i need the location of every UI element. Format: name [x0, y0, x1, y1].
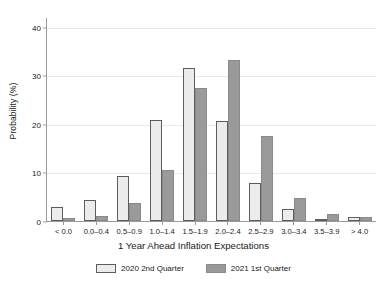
chart-legend: 2020 2nd Quarter2021 1st Quarter: [0, 264, 387, 273]
bar-group: [343, 18, 376, 221]
bar: [183, 68, 195, 221]
bar-group: [212, 18, 245, 221]
x-axis-tick-label: 1.5–1.9: [179, 224, 212, 240]
bar: [63, 218, 75, 221]
legend-label: 2021 1st Quarter: [231, 264, 291, 273]
bar: [294, 198, 306, 221]
x-axis-tick-label: 0.5–0.9: [113, 224, 146, 240]
bar: [96, 216, 108, 221]
bar: [51, 207, 63, 221]
bar-group: [244, 18, 277, 221]
x-axis-label: 1 Year Ahead Inflation Expectations: [0, 240, 387, 251]
bar: [216, 121, 228, 221]
bar-group: [113, 18, 146, 221]
bar: [282, 209, 294, 221]
x-axis-tick-label: 1.0–1.4: [146, 224, 179, 240]
legend-item: 2020 2nd Quarter: [96, 264, 184, 273]
x-axis-tick-label: 0.0–0.4: [80, 224, 113, 240]
bar: [150, 120, 162, 221]
bar-group: [146, 18, 179, 221]
bar-group: [179, 18, 212, 221]
legend-swatch: [206, 264, 226, 273]
legend-item: 2021 1st Quarter: [206, 264, 291, 273]
bar-group: [310, 18, 343, 221]
bar: [360, 217, 372, 221]
x-axis-tick-label: 2.5–2.9: [244, 224, 277, 240]
bar: [327, 214, 339, 221]
x-axis-tick-labels: < 0.00.0–0.40.5–0.91.0–1.41.5–1.92.0–2.4…: [47, 224, 376, 240]
legend-label: 2020 2nd Quarter: [121, 264, 184, 273]
x-axis-tick-label: < 0.0: [47, 224, 80, 240]
legend-swatch: [96, 264, 116, 273]
bar: [228, 60, 240, 221]
bar: [84, 200, 96, 221]
bar: [261, 136, 273, 221]
x-axis-tick-label: 3.0–3.4: [277, 224, 310, 240]
inflation-expectations-bar-chart: Probability (%) 010203040 < 0.00.0–0.40.…: [0, 0, 387, 293]
bar: [195, 88, 207, 221]
plot-area: 010203040: [46, 18, 376, 222]
bar: [129, 203, 141, 221]
bar: [315, 219, 327, 221]
bar-group: [80, 18, 113, 221]
bar: [249, 183, 261, 221]
bar-group: [277, 18, 310, 221]
bar-groups: [47, 18, 376, 221]
y-axis-label-text: Probability (%): [8, 83, 18, 140]
x-axis-tick-label: > 4.0: [343, 224, 376, 240]
x-axis-tick-label: 2.0–2.4: [212, 224, 245, 240]
bar: [117, 176, 129, 221]
y-axis-label: Probability (%): [2, 0, 24, 222]
bar-group: [47, 18, 80, 221]
x-axis-tick-label: 3.5–3.9: [310, 224, 343, 240]
bar: [348, 217, 360, 221]
bar: [162, 170, 174, 221]
